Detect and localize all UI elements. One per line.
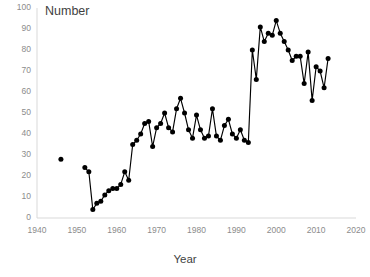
data-point [150, 144, 155, 149]
series-line-number [85, 21, 328, 210]
data-point [278, 31, 283, 36]
y-tick-80: 80 [22, 44, 32, 54]
data-point [322, 85, 327, 90]
data-point [326, 56, 331, 61]
data-point [262, 39, 267, 44]
data-point [158, 121, 163, 126]
y-tick-40: 40 [22, 128, 32, 138]
series-markers-number [58, 18, 330, 212]
data-point [118, 182, 123, 187]
data-point [290, 58, 295, 63]
data-point [198, 127, 203, 132]
chart-container: Number 0102030405060708090100 1940195019… [0, 0, 370, 277]
y-tick-70: 70 [22, 65, 32, 75]
data-point [170, 129, 175, 134]
data-point [270, 33, 275, 38]
data-point [306, 50, 311, 55]
y-tick-50: 50 [22, 107, 32, 117]
data-point [314, 64, 319, 69]
data-point [166, 125, 171, 130]
data-point [90, 207, 95, 212]
data-point [318, 69, 323, 74]
data-point [138, 132, 143, 137]
data-point [126, 178, 131, 183]
data-point [274, 18, 279, 23]
x-tick-2010: 2010 [307, 225, 326, 235]
data-point [182, 111, 187, 116]
data-point [254, 77, 259, 82]
data-point [102, 192, 107, 197]
x-tick-1970: 1970 [147, 225, 166, 235]
y-tick-100: 100 [17, 2, 31, 12]
data-point [146, 119, 151, 124]
x-tick-2020: 2020 [347, 225, 366, 235]
data-point [114, 186, 119, 191]
data-point [238, 127, 243, 132]
data-point [206, 134, 211, 139]
y-tick-10: 10 [22, 191, 32, 201]
data-point [98, 199, 103, 204]
x-tick-1950: 1950 [67, 225, 86, 235]
data-point [210, 106, 215, 111]
data-point [226, 117, 231, 122]
x-tick-1940: 1940 [28, 225, 47, 235]
y-axis-tick-labels: 0102030405060708090100 [17, 2, 31, 222]
data-point [174, 106, 179, 111]
data-point [122, 169, 127, 174]
data-point [246, 140, 251, 145]
x-axis-tick-labels: 194019501960197019801990200020102020 [28, 225, 366, 235]
line-chart-plot: 0102030405060708090100 19401950196019701… [0, 0, 370, 277]
data-point [194, 113, 199, 118]
data-point [178, 96, 183, 101]
data-point [298, 54, 303, 59]
x-tick-1990: 1990 [227, 225, 246, 235]
data-point [222, 123, 227, 128]
data-point [190, 136, 195, 141]
data-point [130, 142, 135, 147]
y-tick-30: 30 [22, 149, 32, 159]
data-point [134, 138, 139, 143]
y-tick-0: 0 [26, 212, 31, 222]
data-point [58, 157, 63, 162]
x-tick-1960: 1960 [107, 225, 126, 235]
data-point [250, 48, 255, 53]
data-point [82, 165, 87, 170]
y-tick-90: 90 [22, 23, 32, 33]
data-point [234, 136, 239, 141]
data-point [258, 24, 263, 29]
data-point [186, 127, 191, 132]
x-axis-title: Year [0, 253, 370, 265]
data-point [86, 169, 91, 174]
data-point [230, 132, 235, 137]
y-tick-20: 20 [22, 170, 32, 180]
x-tick-1980: 1980 [187, 225, 206, 235]
data-point [162, 111, 167, 116]
data-point [310, 98, 315, 103]
data-point [214, 134, 219, 139]
y-tick-60: 60 [22, 86, 32, 96]
data-point [302, 81, 307, 86]
data-point [218, 138, 223, 143]
data-point [154, 125, 159, 130]
x-tick-2000: 2000 [267, 225, 286, 235]
data-point [282, 39, 287, 44]
data-point [286, 48, 291, 53]
